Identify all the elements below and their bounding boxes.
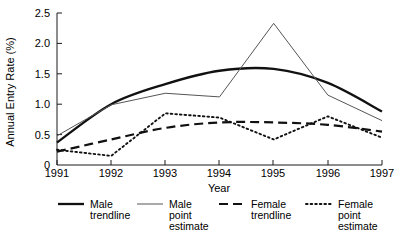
series-female-point-estimate [57, 113, 382, 156]
legend-label-male-trendline-line2: trendline [90, 209, 130, 221]
series-female-trendline [57, 122, 382, 152]
x-tick-label-1993: 1993 [153, 167, 177, 179]
legend-label-female-trendline-line2: trendline [251, 209, 291, 221]
x-tick-label-1994: 1994 [207, 167, 231, 179]
x-tick-label-1992: 1992 [99, 167, 123, 179]
chart-legend: Male trendline Male point estimate Femal… [58, 198, 378, 232]
x-axis-title: Year [208, 182, 231, 194]
x-tick-label-1991: 1991 [45, 167, 69, 179]
x-tick-label-1997: 1997 [370, 167, 394, 179]
legend-label-male-point-line3: estimate [169, 220, 209, 232]
x-tick-label-1996: 1996 [316, 167, 340, 179]
y-tick-label-0-5: 0.5 [35, 129, 50, 141]
y-axis-title: Annual Entry Rate (%) [4, 37, 16, 146]
y-tick-label-2-0: 2.0 [35, 37, 50, 49]
chart-figure: Annual Entry Rate (%) 2.5 2.0 1.5 1.0 0.… [0, 0, 405, 240]
annual-entry-rate-line-chart: Annual Entry Rate (%) 2.5 2.0 1.5 1.0 0.… [0, 0, 405, 240]
y-tick-label-1-5: 1.5 [35, 68, 50, 80]
series-male-trendline [57, 68, 382, 143]
y-tick-label-2-5: 2.5 [35, 7, 50, 19]
y-tick-label-1-0: 1.0 [35, 98, 50, 110]
legend-label-female-point-line3: estimate [338, 220, 378, 232]
x-tick-label-1995: 1995 [261, 167, 285, 179]
